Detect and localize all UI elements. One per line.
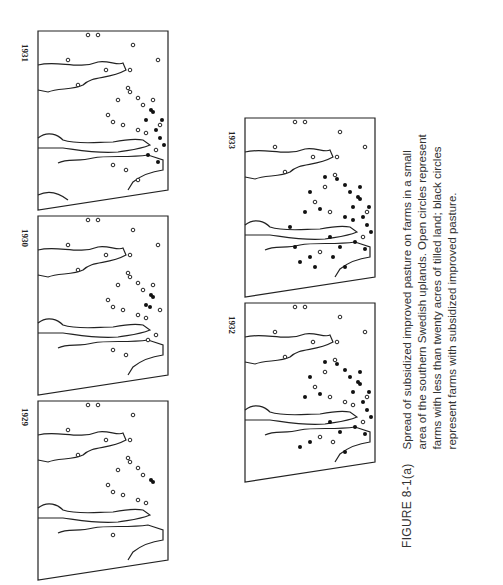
caption-text: Spread of subsidized improved pasture on… (400, 194, 460, 449)
year-label-1931: 1931 (20, 44, 30, 62)
figure-caption: FIGURE 8-1(a) Spread of subsidized impro… (400, 248, 460, 548)
map-panel-1929: 1929 (38, 400, 173, 585)
caption-line: represent farms with subsidized improved… (445, 194, 460, 449)
map-panel-1932: 1932 (245, 302, 380, 487)
year-label-1930: 1930 (20, 229, 30, 247)
caption-line: area of the southern Swedish uplands. Op… (415, 194, 430, 449)
map-1929 (38, 400, 173, 585)
caption-line: Spread of subsidized improved pasture on… (400, 194, 415, 449)
black-circles (144, 108, 166, 164)
map-panel-1930: 1930 (38, 215, 173, 400)
map-1932 (245, 302, 380, 487)
map-1933 (245, 117, 380, 302)
map-1931 (38, 30, 173, 215)
year-label-1932: 1932 (227, 316, 237, 334)
figure-label: FIGURE 8-1(a) (400, 463, 460, 548)
map-1930 (38, 215, 173, 400)
map-panel-1933: 1933 (245, 117, 380, 302)
caption-line: farms with less than twenty acres of til… (430, 194, 445, 449)
year-label-1933: 1933 (227, 131, 237, 149)
map-panel-1931: 1931 (38, 30, 173, 215)
year-label-1929: 1929 (20, 408, 30, 426)
